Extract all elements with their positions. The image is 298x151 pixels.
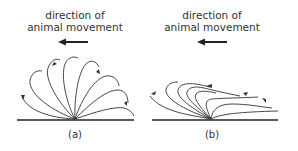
panel-b-curves — [150, 82, 278, 119]
panel-a-caption: (a) — [68, 129, 82, 140]
panel-a-direction-arrow-icon — [58, 39, 88, 46]
panel-a: direction of animal movement (a) — [17, 9, 134, 140]
panel-a-heading-line1: direction of — [45, 9, 105, 21]
panel-b-heading-line1: direction of — [182, 9, 242, 21]
panel-a-curves — [22, 57, 134, 119]
panel-a-heading-line2: animal movement — [27, 21, 123, 33]
panel-a-flow-arrow-icons — [21, 62, 127, 106]
panel-b: direction of animal movement (b) — [150, 9, 278, 140]
panel-b-direction-arrow-icon — [197, 39, 227, 46]
panel-b-heading-line2: animal movement — [164, 21, 260, 33]
panel-b-caption: (b) — [205, 129, 219, 140]
diagram-canvas: direction of animal movement (a) directi… — [0, 0, 298, 151]
